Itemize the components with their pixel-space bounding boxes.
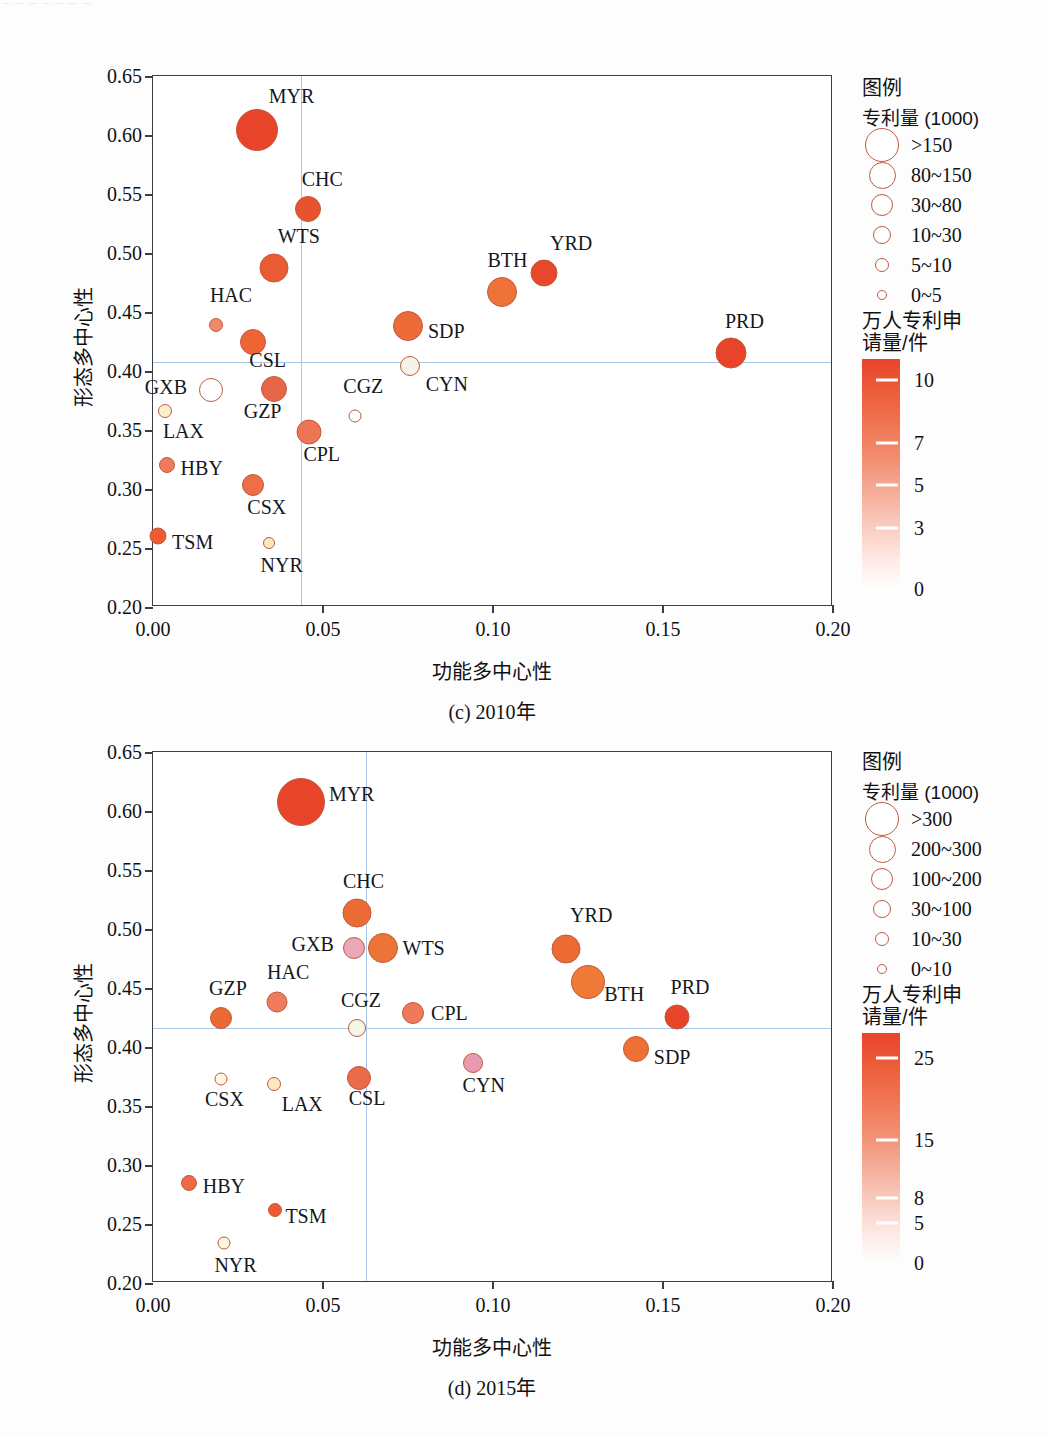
bubble-csx <box>242 474 264 496</box>
x-axis-tick-label: 0.00 <box>136 618 171 641</box>
bubble-gxb <box>199 378 223 402</box>
y-axis-tick-label: 0.20 <box>107 1272 142 1295</box>
point-label-lax: LAX <box>163 420 204 443</box>
colorbar-tick-label: 10 <box>914 368 934 391</box>
y-axis-tick-label: 0.35 <box>107 419 142 442</box>
y-axis-tick <box>145 1106 153 1108</box>
y-axis-title: 形态多中心性 <box>68 287 97 407</box>
y-axis-tick-label: 0.55 <box>107 183 142 206</box>
bubble-tsm <box>268 1203 282 1217</box>
point-label-myr: MYR <box>329 783 375 806</box>
legend-subtitle: 专利量 (1000) <box>862 777 982 804</box>
bubble-tsm <box>150 527 167 544</box>
point-label-wts: WTS <box>278 225 320 248</box>
x-axis-tick <box>832 1281 834 1289</box>
point-label-hby: HBY <box>181 457 223 480</box>
point-label-tsm: TSM <box>172 531 213 554</box>
bubble-cpl <box>297 419 322 444</box>
bubble-gxb <box>343 937 365 959</box>
y-axis-tick <box>145 988 153 990</box>
x-axis-tick-label: 0.10 <box>476 618 511 641</box>
legend-size-label: 80~150 <box>911 164 972 187</box>
x-axis-tick <box>322 1281 324 1289</box>
y-axis-tick-label: 0.60 <box>107 124 142 147</box>
legend-size-row: 0~10 <box>862 954 982 984</box>
figure-root: ᠁ ᠁ ᠁ ᠁ ᠁ ᠁ ᠁ 0.200.250.300.350.400.450.… <box>0 0 1047 1437</box>
legend-size-circle <box>877 290 887 300</box>
bubble-hac <box>267 992 288 1013</box>
bubble-gzp <box>261 376 287 402</box>
colorbar-tick-label: 15 <box>914 1129 934 1152</box>
point-label-chc: CHC <box>343 870 384 893</box>
y-axis-tick <box>145 811 153 813</box>
point-label-cpl: CPL <box>303 443 340 466</box>
point-label-sdp: SDP <box>654 1046 691 1069</box>
bubble-myr <box>236 109 278 151</box>
point-label-hac: HAC <box>210 284 252 307</box>
point-label-cgz: CGZ <box>343 375 383 398</box>
bubble-wts <box>368 933 398 963</box>
point-label-cgz: CGZ <box>341 989 381 1012</box>
y-axis-tick <box>145 489 153 491</box>
y-axis-tick <box>145 1047 153 1049</box>
legend-size-label: 100~200 <box>911 868 982 891</box>
colorbar-caption-line: 万人专利申 <box>862 984 982 1006</box>
point-label-csx: CSX <box>247 496 286 519</box>
colorbar-gradient <box>862 359 900 591</box>
bubble-chc <box>343 899 372 928</box>
legend-size-label: 0~10 <box>911 958 952 981</box>
point-label-csl: CSL <box>349 1087 386 1110</box>
legend-circle-holder <box>862 964 902 974</box>
y-axis-tick <box>145 371 153 373</box>
legend-subtitle: 专利量 (1000) <box>862 103 979 130</box>
y-axis-tick-label: 0.25 <box>107 1213 142 1236</box>
legend-size-circle <box>869 162 896 189</box>
legend-size-row: >150 <box>862 130 979 160</box>
y-axis-tick-label: 0.40 <box>107 360 142 383</box>
bubble-prd <box>716 338 747 369</box>
legend-size-row: 0~5 <box>862 280 979 310</box>
y-axis-tick-label: 0.65 <box>107 65 142 88</box>
y-axis-tick-label: 0.60 <box>107 800 142 823</box>
legend-size-circle <box>871 868 893 890</box>
y-axis-tick <box>145 194 153 196</box>
point-label-csx: CSX <box>205 1088 244 1111</box>
legend-size-label: 30~100 <box>911 898 972 921</box>
y-axis-tick-label: 0.35 <box>107 1095 142 1118</box>
colorbar-tick-label: 0 <box>914 1251 924 1274</box>
colorbar-gradient <box>862 1033 900 1265</box>
legend-size-label: 5~10 <box>911 254 952 277</box>
legend-size-circle <box>871 194 893 216</box>
legend-size-circle <box>875 932 889 946</box>
legend-circle-holder <box>862 162 902 189</box>
colorbar-tick <box>876 484 898 487</box>
y-axis-tick-label: 0.20 <box>107 596 142 619</box>
colorbar-wrap: 107530 <box>862 359 979 591</box>
colorbar-tick <box>876 1139 898 1142</box>
legend-size-label: 0~5 <box>911 284 942 307</box>
bubble-gzp <box>210 1007 232 1029</box>
point-label-cyn: CYN <box>463 1074 505 1097</box>
bubble-cyn <box>463 1053 483 1073</box>
y-axis-tick <box>145 1165 153 1167</box>
point-label-wts: WTS <box>403 937 445 960</box>
point-label-gxb: GXB <box>292 933 334 956</box>
x-axis-tick-label: 0.15 <box>646 1294 681 1317</box>
x-axis-tick-label: 0.20 <box>816 1294 851 1317</box>
x-axis-tick-label: 0.10 <box>476 1294 511 1317</box>
quadrant-line-horizontal <box>153 1028 831 1029</box>
y-axis-tick <box>145 1283 153 1285</box>
y-axis-tick-label: 0.45 <box>107 301 142 324</box>
point-label-gzp: GZP <box>209 977 247 1000</box>
bubble-wts <box>259 253 288 282</box>
point-label-myr: MYR <box>269 85 315 108</box>
legend-size-label: >300 <box>911 808 952 831</box>
colorbar-tick-label: 0 <box>914 577 924 600</box>
bubble-lax <box>267 1077 281 1091</box>
colorbar-tick <box>876 1056 898 1059</box>
panel-c-2010: 0.200.250.300.350.400.450.500.550.600.65… <box>0 0 1047 706</box>
legend-size-circle <box>873 226 891 244</box>
legend-size-row: 10~30 <box>862 924 982 954</box>
quadrant-line-vertical <box>301 76 302 605</box>
point-label-cyn: CYN <box>426 373 468 396</box>
